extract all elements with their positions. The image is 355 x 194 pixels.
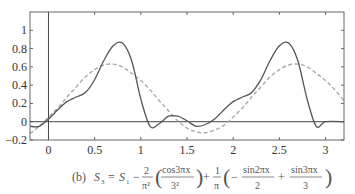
series-s1-dashed: [30, 64, 344, 134]
figure-caption: (b) S 3 = S 1 − 2 π² ( cos3πx 3² ) + 1 π…: [0, 160, 355, 194]
svg-text:1: 1: [126, 178, 130, 186]
x-tick-label: 2.5: [272, 143, 287, 157]
y-tick-label: 0: [21, 115, 27, 129]
caption-formula: (b) S 3 = S 1 − 2 π² ( cos3πx 3² ) + 1 π…: [0, 160, 355, 194]
svg-text:2: 2: [255, 180, 260, 191]
y-tick-label: 0.2: [12, 96, 27, 110]
svg-text:S: S: [94, 170, 100, 184]
svg-text:π²: π²: [142, 180, 150, 191]
x-tick-label: 3: [323, 143, 329, 157]
x-tick-label: 1.5: [180, 143, 195, 157]
svg-text:+: +: [278, 170, 285, 184]
svg-text:3²: 3²: [171, 180, 179, 191]
svg-text:−: −: [231, 170, 238, 184]
y-tick-label: −0.2: [5, 133, 27, 147]
x-axis-ticks: 00.511.522.53: [45, 12, 328, 157]
svg-text:(: (: [223, 164, 230, 189]
svg-text:+: +: [203, 170, 210, 184]
svg-text:sin3πx: sin3πx: [291, 164, 318, 175]
svg-text:cos3πx: cos3πx: [162, 164, 190, 175]
y-tick-label: 0.4: [12, 78, 27, 92]
line-chart: −0.200.20.40.60.81 00.511.522.53: [0, 0, 355, 160]
x-tick-label: 0.5: [87, 143, 102, 157]
svg-text:S: S: [119, 170, 125, 184]
series-s3-solid: [30, 42, 344, 128]
svg-text:=: =: [108, 170, 115, 184]
caption-label: (b): [72, 170, 86, 184]
svg-text:−: −: [133, 170, 140, 184]
svg-text:3: 3: [303, 180, 308, 191]
y-tick-label: 1: [21, 23, 27, 37]
x-tick-label: 1: [138, 143, 144, 157]
x-tick-label: 0: [45, 143, 51, 157]
svg-text:1: 1: [215, 165, 220, 176]
y-tick-label: 0.8: [12, 42, 27, 56]
svg-text:2: 2: [144, 165, 149, 176]
x-tick-label: 2: [230, 143, 236, 157]
y-axis-ticks: −0.200.20.40.60.81: [5, 23, 344, 147]
svg-text:): ): [325, 164, 332, 189]
svg-text:3: 3: [101, 178, 105, 186]
y-tick-label: 0.6: [12, 60, 27, 74]
svg-text:π: π: [214, 180, 219, 191]
svg-text:sin2πx: sin2πx: [243, 164, 270, 175]
